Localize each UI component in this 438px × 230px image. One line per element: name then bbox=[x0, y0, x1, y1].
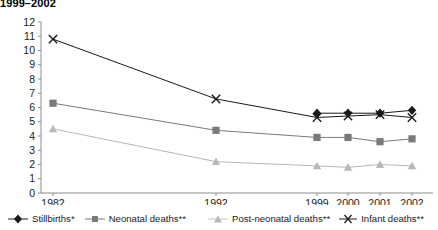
svg-text:2002: 2002 bbox=[400, 197, 424, 205]
svg-text:5: 5 bbox=[29, 115, 35, 127]
legend-label-post-neonatal-deaths: Post-neonatal deaths** bbox=[232, 214, 330, 224]
svg-text:4: 4 bbox=[29, 130, 35, 142]
series-markers bbox=[49, 35, 416, 171]
x-axis-tick-labels: 198219921999200020012002 bbox=[41, 197, 424, 205]
plot-area: 0123456789101112 19821992199920002001200… bbox=[0, 0, 438, 205]
svg-text:6: 6 bbox=[29, 101, 35, 113]
svg-text:1982: 1982 bbox=[41, 197, 65, 205]
y-axis-tick-labels: 0123456789101112 bbox=[23, 16, 35, 199]
svg-text:12: 12 bbox=[23, 16, 35, 28]
triangle-marker-icon bbox=[207, 213, 229, 225]
svg-text:9: 9 bbox=[29, 58, 35, 70]
svg-text:1: 1 bbox=[29, 172, 35, 184]
svg-text:0: 0 bbox=[29, 187, 35, 199]
svg-text:1992: 1992 bbox=[204, 197, 228, 205]
svg-text:1999: 1999 bbox=[305, 197, 329, 205]
axes bbox=[41, 22, 433, 193]
svg-text:2001: 2001 bbox=[368, 197, 392, 205]
chart-legend: Stillbirths* Neonatal deaths** Post-neon… bbox=[0, 209, 438, 229]
svg-text:8: 8 bbox=[29, 73, 35, 85]
diamond-marker-icon bbox=[7, 213, 29, 225]
figure: 1999–2002 0123456789101112 1982199219992… bbox=[0, 0, 438, 230]
x-marker-icon bbox=[338, 213, 358, 225]
legend-item-stillbirths: Stillbirths* bbox=[7, 213, 75, 225]
legend-item-neonatal-deaths: Neonatal deaths** bbox=[84, 213, 186, 225]
square-marker-icon bbox=[84, 213, 106, 225]
svg-text:7: 7 bbox=[29, 87, 35, 99]
legend-item-post-neonatal-deaths: Post-neonatal deaths** bbox=[207, 213, 330, 225]
line-chart: 0123456789101112 19821992199920002001200… bbox=[0, 0, 438, 205]
svg-text:2: 2 bbox=[29, 158, 35, 170]
svg-text:11: 11 bbox=[24, 30, 35, 42]
svg-text:2000: 2000 bbox=[336, 197, 360, 205]
series-lines bbox=[53, 39, 412, 167]
svg-text:10: 10 bbox=[23, 44, 35, 56]
legend-label-stillbirths: Stillbirths* bbox=[32, 214, 75, 224]
legend-item-infant-deaths: Infant deaths** bbox=[338, 213, 424, 225]
legend-label-neonatal-deaths: Neonatal deaths** bbox=[109, 214, 186, 224]
svg-text:3: 3 bbox=[29, 144, 35, 156]
legend-label-infant-deaths: Infant deaths** bbox=[361, 214, 424, 224]
